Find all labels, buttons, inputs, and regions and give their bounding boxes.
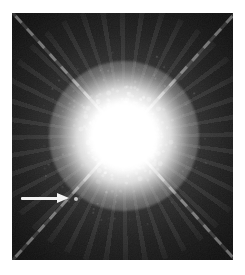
page — [0, 0, 245, 275]
astronomy-photo — [12, 13, 233, 260]
star-core — [89, 101, 159, 171]
companion-star-dot — [74, 197, 78, 201]
arrow-right-icon — [21, 197, 58, 200]
arrow-right-icon-head — [57, 193, 69, 203]
